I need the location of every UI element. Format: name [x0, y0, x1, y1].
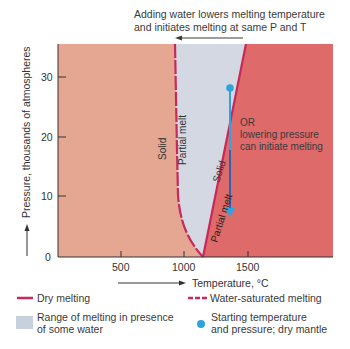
- pressure-annotation-line1: OR: [240, 117, 255, 129]
- legend-range-line2: of some water: [37, 323, 103, 335]
- y-axis-arrow-icon: [25, 224, 30, 256]
- legend-range-line1: Range of melting in presence: [37, 311, 174, 323]
- y-tick-30: 30: [41, 71, 53, 83]
- legend-start-line2: and pressure; dry mantle: [211, 323, 327, 335]
- starting-point-dot: [226, 84, 234, 92]
- x-tick-1000: 1000: [172, 261, 195, 273]
- x-tick-500: 500: [112, 261, 130, 273]
- legend-dry-melting: Dry melting: [37, 292, 90, 304]
- y-tick-10: 10: [41, 190, 53, 202]
- y-tick-0: 0: [45, 251, 51, 263]
- legend-water-saturated: Water-saturated melting: [210, 292, 322, 304]
- x-axis-label: Temperature, °C: [192, 277, 269, 289]
- x-tick-1500: 1500: [236, 261, 259, 273]
- solid-label-left: Solid: [157, 138, 168, 160]
- pressure-annotation-line3: can initiate melting: [240, 141, 323, 153]
- y-tick-20: 20: [41, 131, 53, 143]
- starting-point-swatch: [197, 320, 205, 328]
- left-arrow-icon: [175, 36, 243, 41]
- partial-melt-label-left: Partial melt: [177, 115, 188, 165]
- water-range-swatch: [16, 316, 33, 329]
- y-axis-label: Pressure, thousands of atmospheres: [20, 46, 32, 218]
- pressure-annotation-line2: lowering pressure: [240, 129, 319, 141]
- legend-start-line1: Starting temperature: [211, 311, 307, 323]
- x-axis-arrow-icon: [118, 281, 186, 286]
